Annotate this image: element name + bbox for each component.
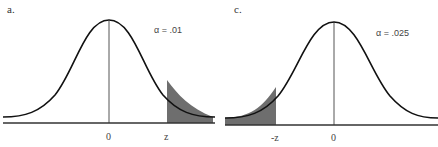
alpha-label: α = .01 [154,25,182,35]
panel-c: c. α = .025 0 -z [225,3,438,143]
panel-c-label: c. [234,3,242,15]
alpha-label: α = .025 [376,28,409,38]
panel-a-label: a. [7,3,15,15]
tick-zero: 0 [331,132,336,143]
tick-zero: 0 [106,131,111,142]
tick-z: z [164,131,169,142]
panel-a: a. α = .01 0 z [3,3,215,142]
normal-distribution-diagrams: a. α = .01 0 z c. α = .025 0 -z [0,0,438,147]
tick-neg-z: -z [271,132,279,143]
